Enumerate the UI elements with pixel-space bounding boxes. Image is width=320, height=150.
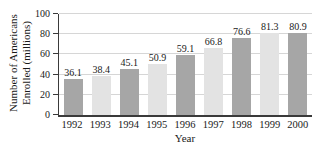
y-tick-label: 60	[40, 48, 50, 59]
x-tick-labels: 199219931994199519961997199819992000	[58, 119, 312, 131]
y-axis-tick	[53, 13, 58, 14]
bar	[64, 79, 83, 115]
y-tick-label: 80	[40, 28, 50, 39]
x-tick-label: 1998	[227, 119, 255, 131]
y-tick-labels: 020406080100	[0, 14, 54, 115]
bar-value-label: 80.9	[289, 21, 307, 32]
x-tick-label: 1994	[114, 119, 142, 131]
y-axis-tick	[53, 114, 58, 115]
x-tick-label: 1996	[171, 119, 199, 131]
y-tick-label: 0	[45, 109, 50, 120]
bar-value-label: 50.9	[149, 52, 167, 63]
x-tick-label: 1999	[256, 119, 284, 131]
enrollment-bar-chart: Number of Americans Enrolled (millions) …	[0, 0, 320, 150]
bar-value-label: 81.3	[261, 21, 279, 32]
bar-column: 59.1	[171, 14, 199, 115]
x-tick-label: 1997	[199, 119, 227, 131]
bar	[120, 69, 139, 115]
bar	[148, 64, 167, 115]
x-tick-label: 2000	[284, 119, 312, 131]
bar	[288, 33, 307, 115]
bar-column: 50.9	[143, 14, 171, 115]
x-axis-title: Year	[58, 132, 312, 145]
y-tick-label: 40	[40, 69, 50, 80]
y-tick-label: 100	[35, 8, 50, 19]
bar	[260, 33, 279, 115]
bar-value-label: 66.8	[205, 36, 223, 47]
y-axis-tick	[53, 53, 58, 54]
bar-value-label: 36.1	[64, 67, 82, 78]
y-tick-label: 20	[40, 89, 50, 100]
bar	[204, 48, 223, 115]
bar-value-label: 38.4	[92, 64, 110, 75]
bar-column: 80.9	[284, 14, 312, 115]
y-axis-tick	[53, 94, 58, 95]
bar	[232, 38, 251, 115]
bar-value-label: 59.1	[177, 43, 195, 54]
bar-value-label: 76.6	[233, 26, 251, 37]
bars: 36.138.445.150.959.166.876.681.380.9	[59, 14, 312, 115]
x-tick-label: 1995	[143, 119, 171, 131]
bar-column: 76.6	[228, 14, 256, 115]
bar-column: 36.1	[59, 14, 87, 115]
bar-column: 38.4	[87, 14, 115, 115]
bar-column: 45.1	[115, 14, 143, 115]
bar-column: 81.3	[256, 14, 284, 115]
bar	[176, 55, 195, 115]
y-axis-tick	[53, 74, 58, 75]
plot-area: 36.138.445.150.959.166.876.681.380.9	[58, 14, 312, 117]
x-tick-label: 1992	[58, 119, 86, 131]
y-axis-tick	[53, 33, 58, 34]
x-tick-label: 1993	[86, 119, 114, 131]
bar-column: 66.8	[200, 14, 228, 115]
bar	[92, 76, 111, 115]
bar-value-label: 45.1	[121, 57, 139, 68]
